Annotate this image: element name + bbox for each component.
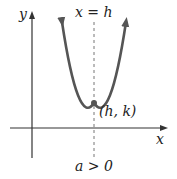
parabola-diagram: y x = h (h, k) x a > 0 bbox=[0, 0, 177, 179]
condition-label: a > 0 bbox=[75, 158, 113, 174]
vertex-label: (h, k) bbox=[99, 103, 136, 119]
axis-of-symmetry-label: x = h bbox=[75, 4, 113, 20]
y-axis-label: y bbox=[19, 6, 27, 22]
parabola-curve-right bbox=[94, 22, 126, 108]
diagram-canvas bbox=[0, 0, 177, 179]
vertex-point bbox=[91, 100, 97, 106]
parabola-curve bbox=[62, 22, 94, 108]
x-axis-label: x bbox=[156, 131, 164, 147]
